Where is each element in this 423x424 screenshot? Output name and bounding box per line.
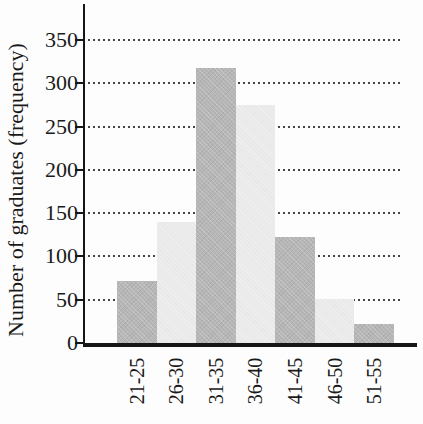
bar-21-25 <box>117 281 157 343</box>
bar-36-40 <box>236 105 275 343</box>
x-axis-line <box>83 343 417 347</box>
bar-26-30 <box>157 222 196 343</box>
y-tick-label-100: 100 <box>0 243 78 269</box>
x-tick-label-41-45: 41-45 <box>284 349 306 413</box>
gridline-350 <box>88 39 402 41</box>
y-tick-label-0: 0 <box>0 330 78 356</box>
histogram-figure: Number of graduates (frequency) 05010015… <box>0 0 423 424</box>
x-tick-label-21-25: 21-25 <box>126 349 148 413</box>
y-axis-line <box>83 4 85 347</box>
x-tick-label-31-35: 31-35 <box>205 349 227 413</box>
y-tick-label-150: 150 <box>0 200 78 226</box>
gridline-300 <box>88 82 402 84</box>
y-tick-label-300: 300 <box>0 70 78 96</box>
bar-46-50 <box>315 299 354 343</box>
bar-41-45 <box>275 237 315 343</box>
x-tick-label-36-40: 36-40 <box>244 349 266 413</box>
x-tick-label-46-50: 46-50 <box>324 349 346 413</box>
y-tick-label-50: 50 <box>0 287 78 313</box>
y-tick-label-350: 350 <box>0 27 78 53</box>
bar-51-55 <box>354 324 394 343</box>
y-tick-label-250: 250 <box>0 114 78 140</box>
x-tick-label-26-30: 26-30 <box>165 349 187 413</box>
y-tick-label-200: 200 <box>0 157 78 183</box>
x-tick-label-51-55: 51-55 <box>363 349 385 413</box>
bar-31-35 <box>196 68 236 343</box>
